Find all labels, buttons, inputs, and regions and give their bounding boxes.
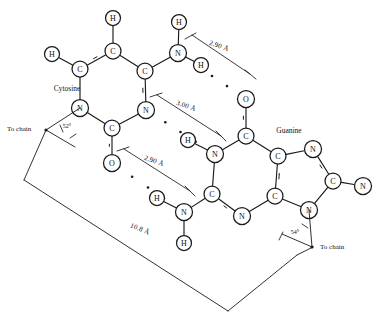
atom-h: H bbox=[172, 15, 187, 30]
atom-c: C bbox=[104, 120, 120, 136]
atom-h: H bbox=[194, 58, 209, 73]
bond bbox=[243, 108, 246, 128]
angle-label-right: 54° bbox=[291, 229, 300, 235]
bond bbox=[286, 151, 304, 155]
figure-canvas: HCHCCNNCONHHOCNHCNHHNCCNCNN 2.90 Å 3.00 … bbox=[0, 0, 385, 322]
svg-text:N: N bbox=[239, 212, 245, 221]
atom-n: N bbox=[176, 204, 193, 221]
to-chain-label-left: To chain bbox=[7, 125, 32, 133]
bond bbox=[341, 182, 354, 184]
svg-text:O: O bbox=[243, 95, 249, 104]
svg-text:C: C bbox=[330, 177, 335, 186]
atom-n: N bbox=[138, 102, 155, 119]
svg-text:N: N bbox=[143, 106, 149, 115]
bond bbox=[315, 188, 328, 204]
atom-h: H bbox=[181, 133, 196, 148]
to-chain-label-right: To chain bbox=[320, 243, 345, 251]
bond bbox=[143, 79, 146, 101]
dimension-label-hbond-middle: 3.00 Å bbox=[175, 99, 197, 113]
bond bbox=[276, 164, 280, 187]
bond bbox=[223, 140, 239, 149]
svg-text:N: N bbox=[310, 145, 316, 154]
atom-n: N bbox=[305, 141, 322, 158]
svg-text:H: H bbox=[176, 18, 182, 27]
svg-text:C: C bbox=[142, 67, 147, 76]
svg-text:O: O bbox=[109, 159, 115, 168]
svg-text:C: C bbox=[77, 65, 82, 74]
svg-text:C: C bbox=[209, 190, 214, 199]
svg-text:H: H bbox=[110, 14, 116, 23]
atoms-layer: HCHCCNNCONHHOCNHCNHHNCCNCNN bbox=[45, 11, 372, 251]
bond bbox=[120, 114, 139, 124]
atom-h: H bbox=[45, 47, 60, 62]
dimension-label-hbond-bottom: 2.90 Å bbox=[143, 154, 165, 168]
svg-text:C: C bbox=[272, 192, 277, 201]
atom-c: C bbox=[238, 128, 254, 144]
to-chain-left-callout: 52° To chain bbox=[7, 108, 80, 147]
bond bbox=[250, 200, 268, 211]
svg-text:C: C bbox=[109, 124, 114, 133]
molecule-label-guanine: Guanine bbox=[276, 126, 302, 135]
bond bbox=[164, 202, 176, 208]
bond bbox=[59, 58, 72, 65]
svg-text:C: C bbox=[110, 47, 115, 56]
svg-text:N: N bbox=[360, 182, 366, 191]
atom-c: C bbox=[105, 43, 121, 59]
dimension-hbond-bottom: 2.90 Å bbox=[117, 147, 195, 196]
bond bbox=[253, 141, 271, 152]
atom-n: N bbox=[355, 178, 372, 195]
molecule-label-cytosine: Cytosine bbox=[54, 84, 81, 93]
dimension-label-hbond-top: 2.90 Å bbox=[208, 39, 230, 53]
bond bbox=[88, 113, 105, 124]
svg-text:H: H bbox=[154, 194, 160, 203]
bond bbox=[219, 199, 235, 211]
dimension-pair-width: 10.8 Å bbox=[129, 221, 151, 236]
atom-c: C bbox=[270, 148, 286, 164]
svg-text:H: H bbox=[49, 50, 55, 59]
atom-h: H bbox=[177, 236, 192, 251]
svg-text:N: N bbox=[181, 208, 187, 217]
atom-c: C bbox=[267, 188, 283, 204]
bond bbox=[109, 137, 112, 155]
bond bbox=[186, 57, 194, 61]
svg-text:N: N bbox=[212, 150, 218, 159]
svg-text:C: C bbox=[243, 132, 248, 141]
dimension-label-pair-width: 10.8 Å bbox=[129, 221, 151, 236]
bond bbox=[87, 55, 105, 65]
svg-text:H: H bbox=[198, 61, 204, 70]
atom-h: H bbox=[150, 191, 165, 206]
svg-text:H: H bbox=[185, 136, 191, 145]
atom-o: O bbox=[238, 91, 255, 108]
bond bbox=[283, 199, 301, 206]
bond bbox=[213, 163, 215, 186]
bond bbox=[318, 157, 329, 174]
svg-text:H: H bbox=[181, 239, 187, 248]
atom-n: N bbox=[234, 208, 251, 225]
bond bbox=[192, 199, 205, 208]
bond bbox=[120, 56, 138, 67]
atom-c: C bbox=[72, 61, 88, 77]
atom-c: C bbox=[325, 173, 341, 189]
atom-o: O bbox=[104, 155, 121, 172]
base-pair-diagram: HCHCCNNCONHHOCNHCNHHNCCNCNN 2.90 Å 3.00 … bbox=[0, 0, 385, 322]
atom-n: N bbox=[207, 146, 224, 163]
angle-label-left: 52° bbox=[63, 123, 72, 129]
atom-c: C bbox=[137, 63, 153, 79]
svg-text:C: C bbox=[275, 152, 280, 161]
atom-c: C bbox=[204, 186, 220, 202]
svg-text:N: N bbox=[175, 49, 181, 58]
bond bbox=[195, 144, 207, 150]
dimension-hbond-top: 2.90 Å bbox=[185, 33, 256, 79]
atom-h: H bbox=[106, 11, 121, 26]
bond bbox=[152, 57, 170, 67]
atom-n: N bbox=[170, 45, 187, 62]
